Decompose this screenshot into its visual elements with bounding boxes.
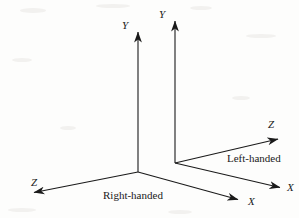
coordinate-systems-figure: Y X Z Right-handed Y X Z Left-handed — [0, 0, 299, 218]
right-handed-axes — [34, 32, 238, 200]
right-handed-z-axis-label: Z — [31, 177, 37, 188]
axes-diagram — [0, 0, 299, 218]
left-handed-y-axis-label: Y — [159, 9, 165, 20]
left-handed-x-axis-label: X — [287, 182, 294, 193]
right-handed-caption: Right-handed — [103, 190, 163, 201]
left-handed-caption: Left-handed — [227, 153, 281, 164]
right-handed-y-axis-label: Y — [122, 20, 128, 31]
right-handed-x-axis-label: X — [248, 196, 255, 207]
left-handed-z-axis-label: Z — [268, 119, 274, 130]
left-handed-x-axis — [175, 163, 280, 188]
